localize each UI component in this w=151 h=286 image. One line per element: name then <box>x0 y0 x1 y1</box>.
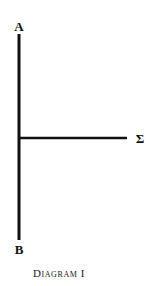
diagram-caption: Diagram I <box>0 267 118 279</box>
label-sigma: Σ <box>136 131 145 146</box>
diagram-canvas: A B Σ <box>0 0 151 286</box>
label-b: B <box>15 242 24 257</box>
label-a: A <box>14 19 24 34</box>
